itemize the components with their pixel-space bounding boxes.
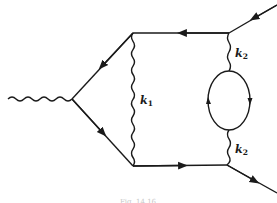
figure-caption: Fig. 14.16 [120,198,157,203]
feynman-diagram: k1 k2 k2 Fig. 14.16 [0,0,277,203]
external-photon-line [8,97,72,101]
arrow-icon [227,165,255,181]
internal-photon-k1 [132,33,135,166]
label-k2-top: k2 [235,47,248,61]
fermion-loop [208,71,250,130]
internal-photon-k2-lower [227,130,231,165]
arrow-icon [254,5,277,18]
label-k2-bottom: k2 [235,143,248,157]
label-k1: k1 [140,94,153,108]
arrow-icon [133,166,183,167]
arrow-icon [72,99,103,133]
arrow-icon [248,98,253,105]
internal-photon-k2-upper [228,33,231,71]
arrow-icon [102,33,133,66]
